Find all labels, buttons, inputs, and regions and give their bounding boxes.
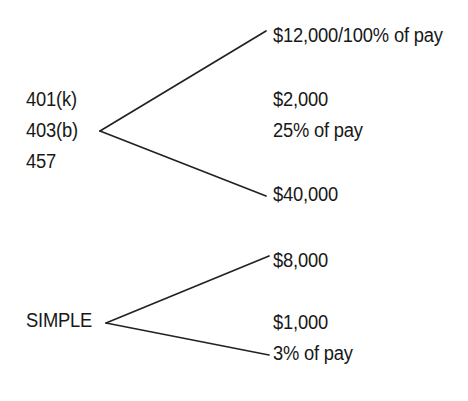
plan-label-simple: SIMPLE — [26, 311, 92, 330]
plan-label-401k: 401(k) — [26, 90, 77, 109]
limit-label-percent-of-pay-3: 3% of pay — [273, 344, 353, 363]
plan-label-403b: 403(b) — [26, 121, 78, 140]
bracket-connector-layer — [0, 0, 468, 401]
diagram-canvas: 401(k) 403(b) 457 SIMPLE $12,000/100% of… — [0, 0, 468, 401]
limit-label-overall-max: $40,000 — [273, 185, 338, 204]
limit-label-elective-deferral: $12,000/100% of pay — [273, 26, 443, 45]
branch-line-401k-upper — [100, 31, 266, 131]
limit-label-simple-deferral: $8,000 — [273, 251, 328, 270]
limit-label-percent-of-pay-25: 25% of pay — [273, 121, 363, 140]
limit-label-simple-catchup: $1,000 — [273, 313, 328, 332]
limit-label-catchup-amount: $2,000 — [273, 90, 328, 109]
plan-label-457: 457 — [26, 152, 56, 171]
branch-line-simple-lower — [106, 323, 269, 355]
branch-line-401k-lower — [100, 131, 266, 196]
branch-line-simple-upper — [106, 256, 269, 323]
